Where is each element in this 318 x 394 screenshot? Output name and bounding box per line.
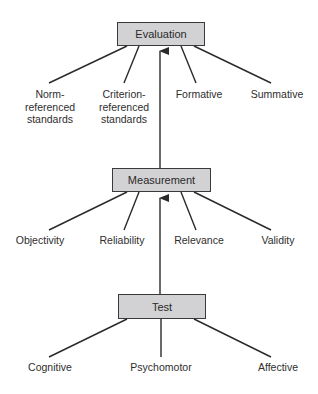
label-line: referenced: [25, 101, 75, 114]
line-eval-summative: [194, 46, 271, 83]
label-affective: Affective: [258, 361, 298, 374]
label-summative: Summative: [251, 88, 304, 101]
node-test: Test: [118, 294, 206, 319]
label-reliability: Reliability: [100, 234, 145, 247]
label-line: referenced: [99, 101, 149, 114]
label-line: standards: [99, 113, 149, 126]
label-norm-referenced-standards: Norm- referenced standards: [25, 88, 75, 126]
label-objectivity: Objectivity: [16, 234, 64, 247]
label-relevance: Relevance: [174, 234, 224, 247]
line-meas-relevance: [181, 192, 196, 230]
line-test-cognitive: [49, 319, 127, 357]
label-line: Criterion-: [99, 88, 149, 101]
label-psychomotor: Psychomotor: [130, 361, 191, 374]
line-test-affective: [194, 319, 271, 357]
label-line: Formative: [176, 88, 223, 101]
node-test-label: Test: [152, 301, 172, 313]
node-evaluation-label: Evaluation: [135, 28, 186, 40]
label-line: standards: [25, 113, 75, 126]
label-validity: Validity: [261, 234, 294, 247]
line-meas-validity: [194, 192, 271, 230]
line-eval-formative: [181, 46, 196, 83]
node-measurement: Measurement: [112, 168, 211, 192]
line-meas-objectivity: [49, 192, 127, 230]
label-criterion-referenced-standards: Criterion- referenced standards: [99, 88, 149, 126]
label-formative: Formative: [176, 88, 223, 101]
label-line: Summative: [251, 88, 304, 101]
node-evaluation: Evaluation: [117, 22, 205, 46]
line-meas-reliability: [124, 192, 139, 230]
label-cognitive: Cognitive: [28, 361, 72, 374]
line-eval-criterion: [124, 46, 139, 83]
label-line: Norm-: [25, 88, 75, 101]
connector-lines: [0, 0, 318, 394]
line-eval-norm: [49, 46, 127, 83]
node-measurement-label: Measurement: [128, 174, 195, 186]
